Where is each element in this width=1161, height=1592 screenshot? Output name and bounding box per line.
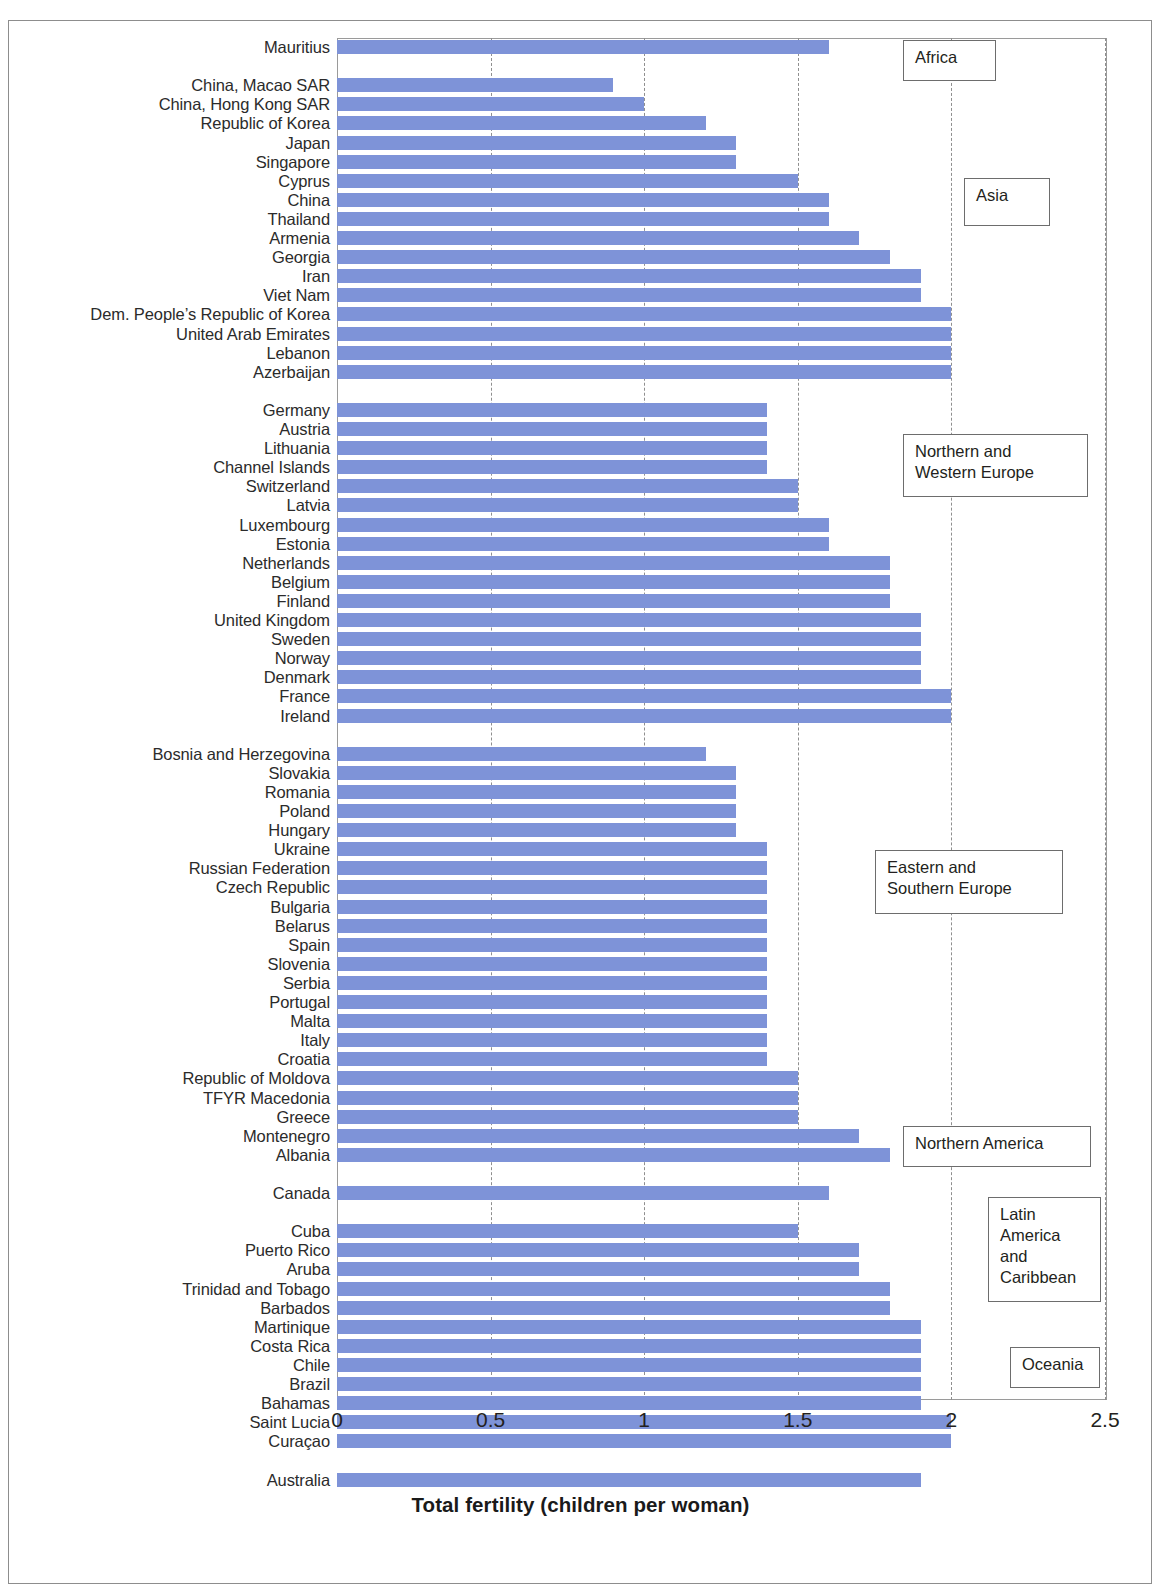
- bar-row: [337, 919, 767, 933]
- bar-row: [337, 1071, 798, 1085]
- bar-row: [337, 307, 951, 321]
- category-label: Estonia: [0, 536, 330, 553]
- bar-row: [337, 1014, 767, 1028]
- category-label: Italy: [0, 1032, 330, 1049]
- bar-row: [337, 1282, 890, 1296]
- bar: [337, 441, 767, 455]
- bar: [337, 97, 644, 111]
- category-label: Cyprus: [0, 173, 330, 190]
- category-label: Slovenia: [0, 956, 330, 973]
- bar: [337, 498, 798, 512]
- bar-row: [337, 1339, 921, 1353]
- bar: [337, 1033, 767, 1047]
- bar: [337, 900, 767, 914]
- category-label: Trinidad and Tobago: [0, 1281, 330, 1298]
- bar-row: [337, 1186, 829, 1200]
- bar-row: [337, 403, 767, 417]
- bar: [337, 594, 890, 608]
- category-label: Cuba: [0, 1223, 330, 1240]
- category-label: Costa Rica: [0, 1338, 330, 1355]
- region-callout-asia: Asia: [964, 178, 1050, 226]
- bar: [337, 288, 921, 302]
- bar-row: [337, 346, 951, 360]
- bar: [337, 1110, 798, 1124]
- bar-row: [337, 632, 921, 646]
- bar: [337, 709, 951, 723]
- bar-row: [337, 1473, 921, 1487]
- category-label: Viet Nam: [0, 287, 330, 304]
- bar-row: [337, 1110, 798, 1124]
- x-tick-1: 1: [638, 1408, 650, 1432]
- category-label: Lithuania: [0, 440, 330, 457]
- x-axis-ticks: 00.511.522.5: [0, 1408, 1161, 1448]
- bar: [337, 785, 736, 799]
- category-label: France: [0, 688, 330, 705]
- bar-row: [337, 250, 890, 264]
- category-label: Hungary: [0, 822, 330, 839]
- category-label: Martinique: [0, 1319, 330, 1336]
- bar: [337, 460, 767, 474]
- bar: [337, 880, 767, 894]
- region-callout-latin-america-and-caribbean: Latin America and Caribbean: [988, 1197, 1101, 1302]
- category-label: Romania: [0, 784, 330, 801]
- category-label: Switzerland: [0, 478, 330, 495]
- bar: [337, 1243, 859, 1257]
- bar: [337, 78, 613, 92]
- category-label: Netherlands: [0, 555, 330, 572]
- category-label: Thailand: [0, 211, 330, 228]
- category-label: Ireland: [0, 708, 330, 725]
- bar: [337, 1282, 890, 1296]
- category-label: Luxembourg: [0, 517, 330, 534]
- bar-row: [337, 136, 736, 150]
- bar-row: [337, 1129, 859, 1143]
- category-label: Australia: [0, 1472, 330, 1489]
- category-label: Brazil: [0, 1376, 330, 1393]
- bar-row: [337, 613, 921, 627]
- bar: [337, 1148, 890, 1162]
- bar-row: [337, 365, 951, 379]
- bar-row: [337, 231, 859, 245]
- bar: [337, 346, 951, 360]
- bar: [337, 1014, 767, 1028]
- bar-row: [337, 327, 951, 341]
- category-label: Ukraine: [0, 841, 330, 858]
- bar: [337, 327, 951, 341]
- bar-row: [337, 785, 736, 799]
- fertility-bar-chart: MauritiusChina, Macao SARChina, Hong Kon…: [0, 0, 1161, 1592]
- bar: [337, 40, 829, 54]
- category-label: Croatia: [0, 1051, 330, 1068]
- bar-row: [337, 594, 890, 608]
- bar: [337, 136, 736, 150]
- bar: [337, 1339, 921, 1353]
- bar-row: [337, 842, 767, 856]
- bar: [337, 174, 798, 188]
- bar: [337, 537, 829, 551]
- bar: [337, 422, 767, 436]
- bar-row: [337, 40, 829, 54]
- bar-row: [337, 212, 829, 226]
- category-label: Mauritius: [0, 39, 330, 56]
- category-label: Lebanon: [0, 345, 330, 362]
- bar: [337, 403, 767, 417]
- bar: [337, 116, 706, 130]
- category-label: Malta: [0, 1013, 330, 1030]
- category-label: United Kingdom: [0, 612, 330, 629]
- bar: [337, 632, 921, 646]
- category-label: Dem. People’s Republic of Korea: [0, 306, 330, 323]
- bar-row: [337, 689, 951, 703]
- bar: [337, 1377, 921, 1391]
- bar-row: [337, 460, 767, 474]
- bar-row: [337, 288, 921, 302]
- category-label: TFYR Macedonia: [0, 1090, 330, 1107]
- bar-row: [337, 1033, 767, 1047]
- category-label: Greece: [0, 1109, 330, 1126]
- bar: [337, 976, 767, 990]
- bar-row: [337, 1052, 767, 1066]
- bar: [337, 479, 798, 493]
- bar-row: [337, 498, 798, 512]
- bar: [337, 613, 921, 627]
- category-label: Republic of Moldova: [0, 1070, 330, 1087]
- region-callout-northern-and-western-europe: Northern and Western Europe: [903, 434, 1088, 497]
- bar: [337, 957, 767, 971]
- bar-row: [337, 518, 829, 532]
